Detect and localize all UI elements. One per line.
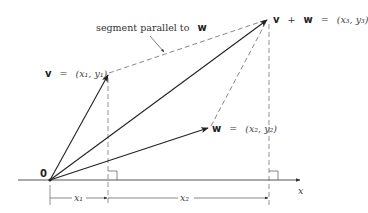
v-coords: (x₁, y₁) xyxy=(76,68,108,79)
sum-equals: = xyxy=(321,14,329,25)
right-angle-mark-2 xyxy=(269,171,278,180)
segment-annotation: segment parallel to w xyxy=(96,17,207,34)
v-label: v = (x₁, y₁) xyxy=(45,63,108,80)
sum-v-name: v xyxy=(273,14,280,25)
origin-label: 0 xyxy=(40,168,47,179)
vector-v-plus-w xyxy=(50,20,267,180)
vector-addition-diagram: x 0 v = (x₁, y₁) w = (x₂, y₂) v + w = (x… xyxy=(0,0,368,213)
v-name: v xyxy=(45,68,52,79)
segment-annotation-text: segment parallel to xyxy=(96,22,190,33)
w-coords: (x₂, y₂) xyxy=(245,123,277,134)
w-name: w xyxy=(212,123,221,134)
annotation-pointer xyxy=(150,36,164,52)
dashed-segment-parallel-to-v xyxy=(211,22,266,126)
sum-w-name: w xyxy=(304,14,313,25)
sum-plus: + xyxy=(288,14,296,25)
w-label: w = (x₂, y₂) xyxy=(212,118,277,135)
v-plus-w-label: v + w = (x₃, y₃) xyxy=(273,9,368,26)
v-equals: = xyxy=(60,68,68,79)
w-equals: = xyxy=(229,123,237,134)
dim-x1-label: x₁ xyxy=(74,192,83,203)
right-angle-mark-1 xyxy=(108,171,117,180)
vector-w xyxy=(50,128,208,180)
x-axis-label: x xyxy=(298,185,304,196)
origin-point xyxy=(48,178,51,181)
dim-x2-label: x₂ xyxy=(180,192,189,203)
segment-annotation-vector: w xyxy=(197,22,206,33)
sum-coords: (x₃, y₃) xyxy=(337,14,368,25)
